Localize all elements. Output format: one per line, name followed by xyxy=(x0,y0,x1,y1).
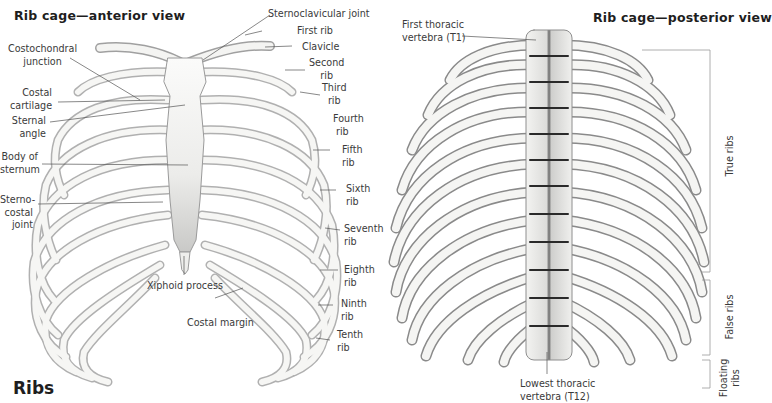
posterior-view-title: Rib cage—posterior view xyxy=(593,10,772,25)
anterior-view-title: Rib cage—anterior view xyxy=(14,8,185,23)
label-sternal-angle: Sternal angle xyxy=(4,115,46,140)
label-first-rib: First rib xyxy=(297,25,333,38)
label-costochondral-junction: Costochondral junction xyxy=(8,43,77,68)
figure-title: Ribs xyxy=(13,378,54,398)
label-tenth-rib: Tenth rib xyxy=(337,329,363,354)
label-floating-ribs: Floating ribs xyxy=(718,358,742,398)
label-clavicle: Clavicle xyxy=(302,41,339,54)
label-first-thoracic-vertebra: First thoracic vertebra (T1) xyxy=(402,19,466,44)
label-costal-margin: Costal margin xyxy=(187,317,254,330)
label-sternoclavicular-joint: Sternoclavicular joint xyxy=(268,8,370,21)
label-true-ribs: True ribs xyxy=(724,126,736,186)
label-seventh-rib: Seventh rib xyxy=(344,223,384,248)
label-fifth-rib: Fifth rib xyxy=(342,144,363,169)
label-ninth-rib: Ninth rib xyxy=(341,298,367,323)
label-sixth-rib: Sixth rib xyxy=(346,183,370,208)
anterior-rib-cage xyxy=(33,46,337,382)
label-fourth-rib: Fourth rib xyxy=(333,113,364,138)
label-xiphoid-process: Xiphoid process xyxy=(147,280,223,293)
label-lowest-thoracic-vertebra: Lowest thoracic vertebra (T12) xyxy=(520,378,595,403)
label-sternocostal-joint: Sterno- costal joint xyxy=(0,194,33,232)
label-false-ribs: False ribs xyxy=(724,287,736,347)
label-body-of-sternum: Body of sternum xyxy=(0,151,38,176)
label-third-rib: Third rib xyxy=(322,82,346,107)
label-eighth-rib: Eighth rib xyxy=(344,264,375,289)
label-second-rib: Second rib xyxy=(309,57,344,82)
label-costal-cartilage: Costal cartilage xyxy=(10,87,52,112)
posterior-rib-cage xyxy=(394,30,704,362)
